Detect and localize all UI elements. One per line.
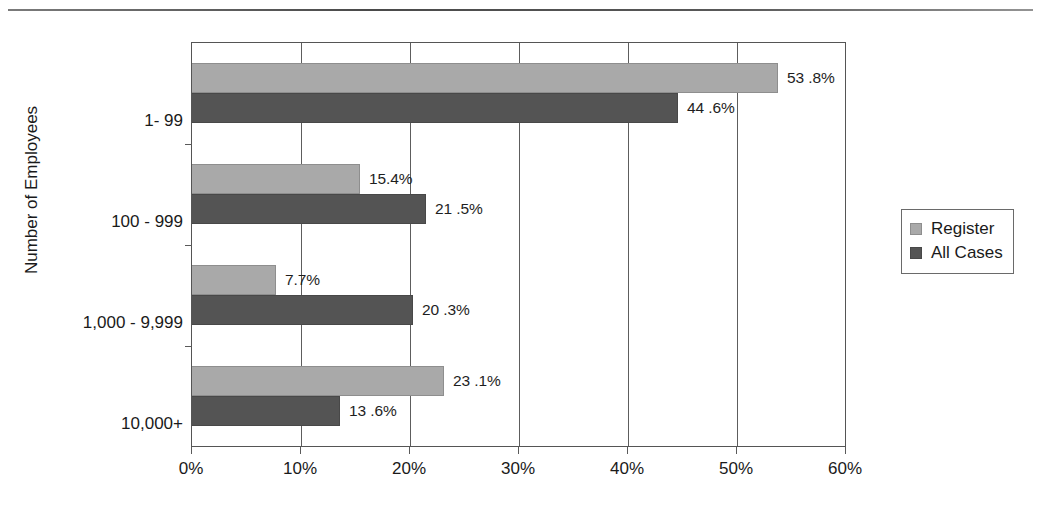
bar-value-label-allcases-2: 20 .3% [422, 301, 470, 319]
x-axis-tick-1 [300, 447, 301, 454]
y-axis-tick-0 [185, 144, 192, 145]
bar-group-0: 53 .8% 44 .6% [192, 63, 845, 123]
bar-allcases-0[interactable] [192, 93, 678, 123]
bar-row-register-0: 53 .8% [192, 63, 845, 93]
legend-item-register[interactable]: Register [910, 217, 1003, 241]
plot-area: 53 .8% 44 .6% 15.4% 21 .5% 7.7% [191, 42, 846, 447]
x-axis-tick-3 [518, 447, 519, 454]
bar-value-label-allcases-3: 13 .6% [349, 402, 397, 420]
bar-value-label-register-3: 23 .1% [453, 372, 501, 390]
bar-group-2: 7.7% 20 .3% [192, 265, 845, 325]
x-axis-label-0: 0% [151, 459, 231, 479]
bar-value-label-allcases-1: 21 .5% [435, 200, 483, 218]
bar-register-3[interactable] [192, 366, 444, 396]
bar-chart-figure: Number of Employees 1- 99 100 - 999 1,00… [0, 0, 1041, 516]
legend-label-register: Register [931, 219, 994, 239]
bar-value-label-allcases-0: 44 .6% [687, 99, 735, 117]
bar-register-0[interactable] [192, 63, 778, 93]
bar-group-3: 23 .1% 13 .6% [192, 366, 845, 426]
y-category-label-3: 10,000+ [23, 414, 183, 434]
legend-item-all-cases[interactable]: All Cases [910, 241, 1003, 265]
chart-legend: Register All Cases [901, 209, 1014, 274]
bar-value-label-register-2: 7.7% [285, 271, 320, 289]
bar-row-allcases-2: 20 .3% [192, 295, 845, 325]
y-axis-tick-1 [185, 245, 192, 246]
legend-swatch-all-cases-icon [910, 247, 922, 259]
bar-row-register-2: 7.7% [192, 265, 845, 295]
y-axis-category-labels: 1- 99 100 - 999 1,000 - 9,999 10,000+ [21, 42, 183, 447]
bar-allcases-3[interactable] [192, 396, 340, 426]
bar-row-register-3: 23 .1% [192, 366, 845, 396]
x-axis-label-6: 60% [805, 459, 885, 479]
legend-label-all-cases: All Cases [931, 243, 1003, 263]
x-axis: 0% 10% 20% 30% 40% 50% 60% [191, 447, 846, 493]
x-axis-label-2: 20% [369, 459, 449, 479]
bar-row-allcases-3: 13 .6% [192, 396, 845, 426]
y-category-label-0: 1- 99 [23, 111, 183, 131]
y-category-label-1: 100 - 999 [23, 212, 183, 232]
bar-value-label-register-0: 53 .8% [787, 69, 835, 87]
y-category-label-2: 1,000 - 9,999 [23, 313, 183, 333]
x-axis-label-5: 50% [696, 459, 776, 479]
bar-value-label-register-1: 15.4% [369, 170, 412, 188]
y-axis-tick-2 [185, 346, 192, 347]
x-axis-tick-6 [845, 447, 846, 454]
bar-row-allcases-1: 21 .5% [192, 194, 845, 224]
x-axis-label-3: 30% [478, 459, 558, 479]
bar-row-allcases-0: 44 .6% [192, 93, 845, 123]
legend-swatch-register-icon [910, 223, 922, 235]
bar-row-register-1: 15.4% [192, 164, 845, 194]
x-axis-tick-0 [191, 447, 192, 454]
bar-group-1: 15.4% 21 .5% [192, 164, 845, 224]
bar-allcases-1[interactable] [192, 194, 426, 224]
bar-allcases-2[interactable] [192, 295, 413, 325]
x-axis-tick-5 [736, 447, 737, 454]
x-axis-label-4: 40% [587, 459, 667, 479]
x-axis-tick-4 [627, 447, 628, 454]
bar-register-2[interactable] [192, 265, 276, 295]
x-axis-label-1: 10% [260, 459, 340, 479]
x-axis-tick-2 [409, 447, 410, 454]
bar-register-1[interactable] [192, 164, 360, 194]
